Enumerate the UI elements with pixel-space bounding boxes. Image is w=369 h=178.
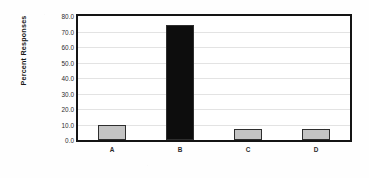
y-tick-label: 70.0 [44, 28, 74, 35]
y-tick-label: 40.0 [44, 75, 74, 82]
y-tick-label: 10.0 [44, 121, 74, 128]
y-tick-label: 60.0 [44, 44, 74, 51]
bar-d [302, 129, 329, 140]
bar-series [78, 16, 350, 140]
plot-area [76, 14, 352, 142]
y-tick-label: 20.0 [44, 106, 74, 113]
x-tick-label: A [110, 146, 115, 153]
y-axis-title: Percent Responses [19, 6, 28, 96]
y-tick-label: 30.0 [44, 90, 74, 97]
bar-a [98, 125, 125, 140]
y-tick-label: 0.0 [44, 137, 74, 144]
x-tick-label: C [246, 146, 251, 153]
x-axis-tick-labels: ABCD [76, 146, 352, 162]
bar-chart-figure: Percent Responses 0.010.020.030.040.050.… [0, 0, 369, 178]
x-tick-label: B [178, 146, 183, 153]
y-axis-tick-labels: 0.010.020.030.040.050.060.070.080.0 [44, 14, 74, 142]
bar-c [234, 129, 261, 140]
x-tick-label: D [314, 146, 319, 153]
y-tick-label: 80.0 [44, 13, 74, 20]
bar-b [166, 25, 193, 140]
y-tick-label: 50.0 [44, 59, 74, 66]
